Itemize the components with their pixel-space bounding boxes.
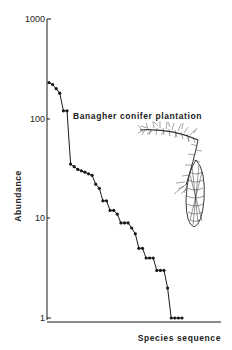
data-point [162, 269, 165, 272]
rank-abundance-chart: 1000 100 10 1 Abundance Species sequence… [0, 0, 232, 350]
data-point [159, 269, 162, 272]
data-point [55, 87, 58, 90]
data-point [170, 316, 173, 319]
data-point [123, 221, 126, 224]
data-point [105, 199, 108, 202]
y-axis-title: Abundance [13, 170, 23, 222]
y-tick-1: 1 [40, 313, 45, 323]
data-point [177, 316, 180, 319]
data-point [109, 209, 112, 212]
chart-annotation: Banagher conifer plantation [73, 111, 202, 121]
data-point [98, 187, 101, 190]
data-point [101, 199, 104, 202]
data-point [148, 256, 151, 259]
data-point [87, 172, 90, 175]
data-point [112, 209, 115, 212]
data-point [141, 247, 144, 250]
y-tick-1000: 1000 [25, 14, 45, 24]
cone-icon [186, 160, 204, 227]
y-tick-100: 100 [30, 114, 45, 124]
data-point [65, 109, 68, 112]
data-point [58, 92, 61, 95]
data-point [134, 232, 137, 235]
data-point [73, 165, 76, 168]
data-point [145, 256, 148, 259]
data-point [127, 221, 130, 224]
data-point [51, 83, 54, 86]
data-point [152, 256, 155, 259]
data-point [137, 247, 140, 250]
data-point [76, 168, 79, 171]
data-point [62, 109, 65, 112]
data-point [80, 169, 83, 172]
data-point [173, 316, 176, 319]
x-axis-title: Species sequence [138, 333, 221, 343]
data-point [94, 183, 97, 186]
data-point [130, 226, 133, 229]
data-point [155, 269, 158, 272]
data-point [91, 174, 94, 177]
data-point [47, 81, 50, 84]
data-point [69, 163, 72, 166]
data-point [119, 221, 122, 224]
data-point [116, 213, 119, 216]
data-point [83, 171, 86, 174]
conifer-branch-illustration [138, 121, 204, 227]
data-point [180, 316, 183, 319]
y-tick-10: 10 [35, 213, 45, 223]
data-point [166, 286, 169, 289]
